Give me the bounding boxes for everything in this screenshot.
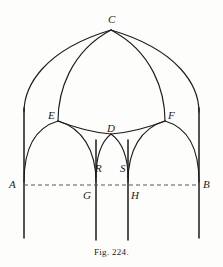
figure-caption: Fig. 224. <box>0 247 223 257</box>
right-lancet-outer-curve <box>165 121 199 182</box>
cusp-arc-left-E-to-D <box>58 121 111 134</box>
inner-arch-left-curve <box>58 30 111 121</box>
outer-arch-left-curve <box>24 30 111 112</box>
cusp-arc-right-F-to-D <box>111 121 165 134</box>
outer-arch-right-curve <box>111 30 199 112</box>
vertex-label-F: F <box>168 110 175 121</box>
vertex-label-B: B <box>203 179 210 190</box>
left-lancet-inner-curve <box>58 121 96 182</box>
vertex-label-C: C <box>108 14 115 25</box>
figure-container: C E F D R S A B G H Fig. 224. <box>0 0 223 267</box>
vertex-label-H: H <box>131 190 139 201</box>
vertex-label-R: R <box>95 163 102 174</box>
vertex-label-D: D <box>107 123 115 134</box>
vertex-label-A: A <box>9 179 16 190</box>
vertex-label-G: G <box>83 190 91 201</box>
vertex-label-S: S <box>120 163 126 174</box>
inner-arch-right-curve <box>111 30 165 121</box>
vertex-label-E: E <box>48 110 55 121</box>
left-lancet-outer-curve <box>24 121 58 182</box>
